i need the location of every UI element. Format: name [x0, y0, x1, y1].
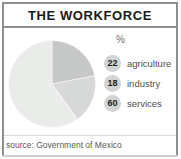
legend-item-agriculture: 22 agriculture	[104, 53, 180, 73]
workforce-pie-chart-card: THE WORKFORCE % 22 agriculture 18 indust…	[0, 0, 181, 159]
legend-value-badge: 22	[104, 55, 121, 72]
legend-unit-header: %	[116, 34, 180, 46]
chart-legend: % 22 agriculture 18 industry 60 services	[104, 34, 180, 113]
legend-item-label: services	[127, 98, 162, 109]
legend-item-industry: 18 industry	[104, 73, 180, 93]
legend-value-badge: 60	[104, 95, 121, 112]
pie-chart-svg	[8, 40, 96, 128]
card-frame-bottom	[2, 155, 178, 157]
legend-item-label: industry	[127, 78, 160, 89]
legend-item-label: agriculture	[127, 58, 171, 69]
legend-value-badge: 18	[104, 75, 121, 92]
chart-title: THE WORKFORCE	[28, 8, 152, 23]
source-divider	[4, 135, 176, 136]
chart-header: THE WORKFORCE	[4, 4, 176, 26]
pie-chart	[8, 40, 96, 128]
source-note: source: Government of Mexico	[6, 140, 122, 150]
legend-item-services: 60 services	[104, 93, 180, 113]
chart-body: % 22 agriculture 18 industry 60 services…	[4, 28, 176, 155]
